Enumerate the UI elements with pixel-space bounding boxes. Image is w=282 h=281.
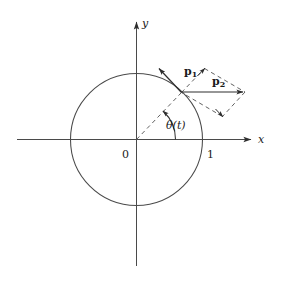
origin-tick-label: 0 bbox=[122, 149, 129, 160]
figure-root: y x 0 1 p1 p2 θ(t) bbox=[0, 0, 282, 281]
p2-base: p bbox=[212, 75, 220, 88]
y-axis-label: y bbox=[142, 18, 148, 29]
parallelogram-edge-lower-left bbox=[182, 93, 223, 117]
p2-vector-label: p2 bbox=[212, 76, 225, 88]
unit-tick-label: 1 bbox=[207, 149, 214, 160]
parallelogram-arrow-top bbox=[198, 68, 205, 75]
p1-subscript: 1 bbox=[192, 69, 198, 79]
parallelogram-arrow-bottom bbox=[216, 109, 223, 117]
parallelogram-edge-lower-right bbox=[223, 92, 246, 117]
x-axis-label: x bbox=[258, 134, 264, 145]
p1-vector-arrow bbox=[159, 69, 182, 93]
p1-vector-label: p1 bbox=[184, 66, 197, 78]
theta-angle-label: θ(t) bbox=[166, 120, 186, 131]
p1-base: p bbox=[184, 65, 192, 78]
unit-circle-diagram bbox=[0, 0, 282, 281]
p2-subscript: 2 bbox=[220, 79, 226, 89]
